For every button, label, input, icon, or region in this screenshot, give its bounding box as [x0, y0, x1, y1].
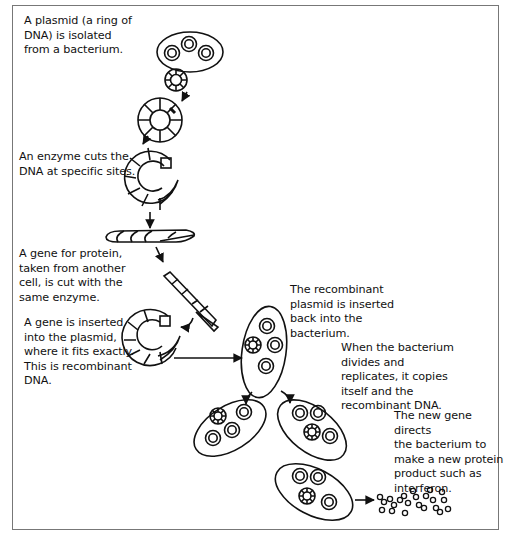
recombinant-plasmid-icon [304, 424, 320, 440]
plasmid-ring-icon [225, 423, 240, 438]
plasmid-ring-icon [237, 405, 252, 420]
plasmid-ring-icon [323, 429, 338, 444]
protein-molecules-icon [377, 487, 450, 515]
plasmid-ring-icon [138, 98, 182, 142]
plasmid-ring-icon [311, 470, 326, 485]
bacterium-icon [157, 32, 223, 72]
recombinant-plasmid-icon [299, 488, 315, 504]
plasmid-ring-icon [293, 469, 308, 484]
plasmid-ring-icon [259, 359, 274, 374]
plasmid-ring-icon [165, 69, 187, 91]
arrow-icon [182, 92, 187, 101]
arrow-icon [181, 318, 193, 327]
plasmid-ring-icon [322, 495, 337, 510]
bacterium-icon [236, 303, 292, 400]
bacterium-icon [184, 388, 275, 468]
recombinant-plasmid-icon [210, 408, 226, 424]
plasmid-ring-icon [206, 431, 221, 446]
dna-strand-icon [106, 230, 194, 242]
recombinant-plasmid-icon [245, 337, 261, 353]
plasmid-ring-icon [293, 406, 308, 421]
bacterium-icon [267, 388, 357, 472]
cut-plasmid-icon [124, 148, 178, 210]
arrow-icon [246, 392, 252, 404]
recombinant-plasmid-icon [122, 309, 180, 365]
diagram-art [0, 0, 509, 535]
arrow-icon [156, 247, 163, 262]
plasmid-ring-icon [268, 338, 283, 353]
plasmid-ring-icon [260, 319, 275, 334]
